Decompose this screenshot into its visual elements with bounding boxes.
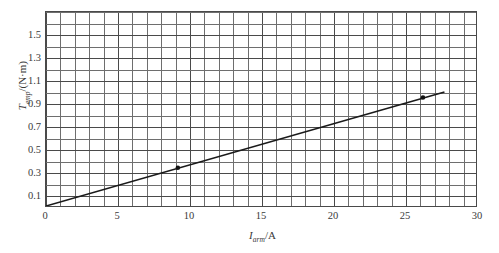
y-tick-label: 1.3 [8, 52, 41, 63]
gridline-vertical [449, 12, 450, 206]
y-tick-label: 1.1 [8, 75, 41, 86]
gridline-vertical [305, 12, 306, 206]
gridline-vertical [204, 12, 205, 206]
y-tick-label: 0.5 [8, 144, 41, 155]
gridline-horizontal [46, 70, 476, 71]
gridline-vertical [147, 12, 148, 206]
gridline-vertical [161, 12, 162, 206]
gridline-vertical [104, 12, 105, 206]
gridline-horizontal [46, 150, 476, 151]
gridline-vertical [392, 12, 393, 206]
x-tick-label: 5 [102, 210, 132, 222]
gridline-vertical [435, 12, 436, 206]
x-tick-label: 20 [318, 210, 348, 222]
gridline-vertical [334, 12, 335, 206]
x-tick-label: 25 [390, 210, 420, 222]
gridline-vertical [420, 12, 421, 206]
gridline-horizontal [46, 104, 476, 105]
gridline-vertical [190, 12, 191, 206]
gridline-horizontal [46, 116, 476, 117]
x-tick-label: 0 [30, 210, 60, 222]
gridline-vertical [219, 12, 220, 206]
gridline-vertical [363, 12, 364, 206]
y-tick-label: 0.1 [8, 190, 41, 201]
gridline-horizontal [46, 12, 476, 13]
gridline-horizontal [46, 35, 476, 36]
gridline-vertical [291, 12, 292, 206]
chart-figure: Temp/(N·m) Iarm/A 051015202530 0.10.30.5… [0, 0, 499, 253]
gridline-horizontal [46, 24, 476, 25]
x-tick-label: 15 [246, 210, 276, 222]
y-tick-label: 0.3 [8, 167, 41, 178]
gridline-vertical [89, 12, 90, 206]
gridline-vertical [320, 12, 321, 206]
gridline-vertical [348, 12, 349, 206]
gridline-horizontal [46, 139, 476, 140]
gridlines [46, 12, 476, 206]
gridline-vertical [176, 12, 177, 206]
y-tick-label: 0.9 [8, 98, 41, 109]
gridline-vertical [46, 12, 47, 206]
gridline-vertical [406, 12, 407, 206]
gridline-horizontal [46, 173, 476, 174]
gridline-horizontal [46, 47, 476, 48]
gridline-vertical [377, 12, 378, 206]
gridline-vertical [276, 12, 277, 206]
gridline-vertical [75, 12, 76, 206]
gridline-horizontal [46, 58, 476, 59]
gridline-horizontal [46, 81, 476, 82]
gridline-vertical [464, 12, 465, 206]
gridline-vertical [118, 12, 119, 206]
gridline-vertical [248, 12, 249, 206]
gridline-horizontal [46, 127, 476, 128]
gridline-vertical [262, 12, 263, 206]
x-axis-unit: /A [265, 229, 276, 241]
gridline-vertical [132, 12, 133, 206]
gridline-horizontal [46, 196, 476, 197]
gridline-horizontal [46, 185, 476, 186]
y-tick-label: 0.7 [8, 121, 41, 132]
gridline-vertical [233, 12, 234, 206]
y-tick-label: 1.5 [8, 29, 41, 40]
x-axis-title: Iarm/A [0, 229, 499, 244]
gridline-horizontal [46, 93, 476, 94]
x-tick-label: 10 [174, 210, 204, 222]
gridline-vertical [60, 12, 61, 206]
gridline-horizontal [46, 162, 476, 163]
plot-area [45, 11, 477, 207]
x-tick-label: 30 [462, 210, 492, 222]
x-axis-subscript: arm [253, 235, 265, 244]
